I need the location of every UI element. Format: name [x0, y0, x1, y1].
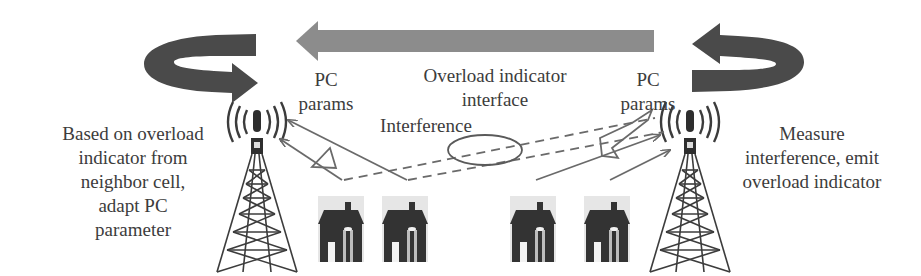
house-icon-3: [510, 196, 556, 262]
house-icon-1: [318, 196, 364, 262]
left-curved-arrow-icon: [144, 34, 258, 103]
overload-indicator-interface-arrow: [296, 21, 654, 61]
right-curved-arrow-icon: [692, 23, 804, 92]
right-uplink-lines: [536, 110, 670, 180]
interference-ellipse: [448, 135, 522, 165]
left-cell-description: Based on overload indicator from neighbo…: [48, 122, 218, 242]
right-cell-tower-icon: [650, 102, 730, 272]
house-icon-2: [382, 196, 428, 262]
left-pc-params-label: PC params: [286, 68, 366, 116]
house-icon-4: [584, 196, 630, 262]
overload-indicator-diagram: Based on overload indicator from neighbo…: [0, 0, 921, 276]
overload-indicator-interface-label: Overload indicator interface: [400, 64, 590, 112]
interference-label: Interference: [366, 114, 486, 138]
left-cell-tower-icon: [217, 102, 297, 272]
right-cell-description: Measure interference, emit overload indi…: [722, 122, 902, 194]
right-pc-params-label: PC params: [608, 68, 688, 116]
